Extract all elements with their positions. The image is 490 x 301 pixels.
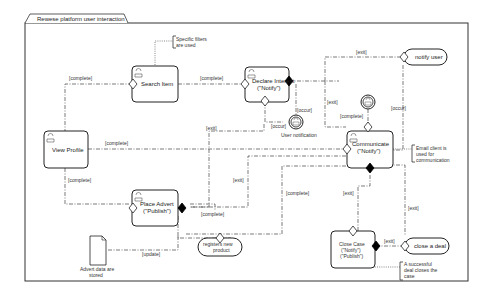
communicate-trigger-event[interactable]	[361, 95, 375, 109]
svg-text:[exit]: [exit]	[343, 190, 354, 196]
event-close-a-deal[interactable]: close a deal	[401, 238, 449, 254]
svg-text:[complete]: [complete]	[201, 211, 225, 217]
svg-text:("Publish"): ("Publish")	[340, 253, 364, 259]
event-notify-user[interactable]: notify user	[400, 49, 447, 65]
svg-text:[complete]: [complete]	[200, 75, 224, 81]
svg-text:View Profile: View Profile	[52, 147, 84, 153]
activity-place-advert[interactable]: Place Advert ("Publish")	[129, 190, 186, 226]
svg-text:[exit]: [exit]	[327, 99, 338, 105]
svg-text:stored: stored	[89, 272, 103, 278]
svg-text:close a deal: close a deal	[414, 243, 446, 249]
svg-text:are used: are used	[176, 42, 196, 48]
svg-text:product: product	[213, 247, 230, 253]
svg-text:Communicate: Communicate	[352, 141, 390, 147]
svg-text:notify user: notify user	[415, 54, 443, 60]
svg-text:[complete]: [complete]	[69, 75, 93, 81]
svg-text:[occur]: [occur]	[271, 123, 287, 129]
svg-text:Declare Interest: Declare Interest	[252, 78, 295, 84]
svg-text:[complete]: [complete]	[68, 177, 92, 183]
svg-text:[exit]: [exit]	[233, 177, 244, 183]
activity-search-item[interactable]: Search Item	[129, 66, 178, 102]
svg-text:User notification: User notification	[281, 132, 317, 138]
frame-title: Rewese platform user interaction	[37, 16, 125, 22]
svg-text:Place Advert: Place Advert	[140, 201, 174, 207]
svg-text:("Notify"): ("Notify")	[257, 85, 281, 91]
svg-text:case: case	[404, 273, 415, 279]
svg-text:("Publish"): ("Publish")	[143, 208, 171, 214]
svg-text:[complete]: [complete]	[340, 113, 364, 119]
activity-view-profile[interactable]: View Profile	[44, 131, 88, 168]
svg-text:[exit]: [exit]	[356, 49, 367, 55]
svg-text:[update]: [update]	[142, 251, 161, 257]
svg-text:[occur]: [occur]	[297, 107, 313, 113]
svg-text:communication: communication	[416, 157, 450, 163]
svg-text:[complete]: [complete]	[286, 190, 310, 196]
svg-text:[complete]: [complete]	[105, 140, 129, 146]
activity-diagram: Rewese platform user interaction	[0, 0, 490, 301]
svg-text:("Notify"): ("Notify")	[357, 148, 381, 154]
svg-text:[exit]: [exit]	[408, 205, 419, 211]
svg-text:[occur]: [occur]	[391, 105, 407, 111]
activity-close-case[interactable]: Close Case ("Notify") ("Publish")	[331, 226, 380, 268]
activity-declare-interest[interactable]: Declare Interest ("Notify")	[241, 67, 295, 106]
svg-text:Search Item: Search Item	[141, 81, 173, 87]
svg-text:[exit]: [exit]	[206, 125, 217, 131]
svg-text:[exit]: [exit]	[384, 238, 395, 244]
